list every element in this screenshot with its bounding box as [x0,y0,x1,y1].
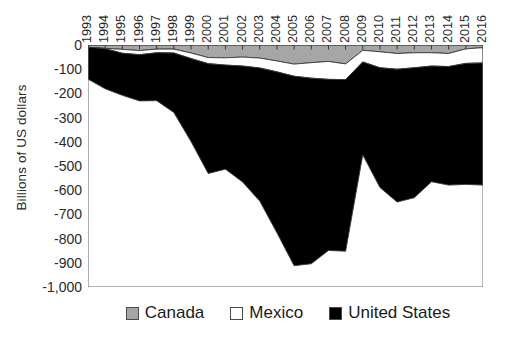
united-states-swatch-icon [329,307,342,320]
trade-balance-area-chart: Billions of US dollars 0-100-200-300-400… [0,0,515,342]
plot-area [88,45,483,287]
x-tick-label: 2006 [304,15,318,43]
x-tick-label: 1995 [115,15,129,43]
y-tick-label: -700 [34,207,82,221]
y-tick-label: -900 [34,256,82,270]
legend-item-canada[interactable]: Canada [126,303,205,323]
x-tick-label: 2012 [407,15,421,43]
x-tick-label: 2008 [339,15,353,43]
x-tick-label: 2009 [356,15,370,43]
x-tick-label: 2014 [442,15,456,43]
x-tick-label: 2015 [459,15,473,43]
x-tick-label: 2002 [236,15,250,43]
x-tick-label: 2005 [287,15,301,43]
legend-item-mexico[interactable]: Mexico [230,303,303,323]
legend-label-mexico: Mexico [249,303,303,323]
y-tick-label: -100 [34,62,82,76]
x-tick-label: 2010 [373,15,387,43]
x-tick-label: 2001 [218,15,232,43]
area-united-states [88,47,483,266]
legend-label-canada: Canada [145,303,205,323]
x-tick-label: 1994 [98,15,112,43]
x-tick-label: 2004 [270,15,284,43]
y-axis-tick-labels: 0-100-200-300-400-500-600-700-800-900-1,… [32,0,82,342]
x-tick-label: 1993 [81,15,95,43]
x-tick-label: 2011 [390,16,404,43]
x-tick-label: 2007 [321,15,335,43]
legend-label-united-states: United States [348,303,450,323]
chart-legend: Canada Mexico United States [88,300,488,326]
x-tick-label: 2003 [253,15,267,43]
canada-swatch-icon [126,307,139,320]
x-tick-label: 1998 [167,15,181,43]
x-tick-label: 1997 [150,15,164,43]
x-tick-label: 2016 [476,15,490,43]
mexico-swatch-icon [230,307,243,320]
legend-item-united-states[interactable]: United States [329,303,450,323]
x-tick-label: 2013 [424,15,438,43]
y-tick-label: -800 [34,232,82,246]
x-axis-tick-labels: 1993199419951996199719981999200020012002… [0,0,515,45]
y-axis-label: Billions of US dollars [14,33,29,263]
x-tick-label: 1996 [133,15,147,43]
y-tick-label: -400 [34,135,82,149]
x-tick-label: 1999 [184,15,198,43]
y-tick-label: -500 [34,159,82,173]
x-tick-label: 2000 [201,15,215,43]
y-tick-label: -600 [34,183,82,197]
y-tick-label: -200 [34,86,82,100]
y-tick-label: -1,000 [34,280,82,294]
y-tick-label: -300 [34,111,82,125]
